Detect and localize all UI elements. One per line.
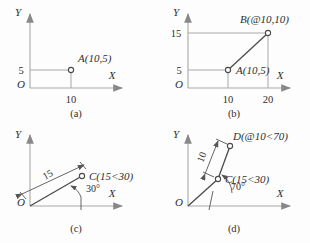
panel-b-origin-label: O — [175, 78, 183, 90]
panel-a-point-a-label: A(10,5) — [77, 52, 112, 65]
panel-c-point-c-label: C(15<30) — [89, 170, 133, 183]
panel-d-angle-reference-tick — [209, 191, 213, 210]
panel-d-origin-label: O — [175, 196, 183, 208]
panel-d-point-c-marker — [215, 176, 220, 181]
panel-d-point-d-marker — [227, 143, 232, 148]
panel-a-x-tick-10: 10 — [66, 94, 77, 105]
panel-d-segment-oc — [188, 179, 218, 206]
panel-c-origin-label: O — [17, 196, 25, 208]
panel-c-angle-label: 30° — [86, 183, 100, 194]
panel-d-ext-line-c — [203, 172, 214, 177]
panel-d-point-d-label: D(@10<70) — [232, 130, 288, 143]
panel-b: Y X O 15 5 10 20 A(10,5) B(@10,10) (b) — [171, 6, 290, 120]
panel-a-caption: (a) — [70, 108, 82, 120]
panel-a-point-a-marker — [68, 67, 73, 72]
panel-c-segment-oc — [30, 176, 82, 206]
panel-d-dimension-label: 10 — [195, 150, 209, 163]
panel-c-angle-arc — [71, 186, 81, 197]
panel-b-x-tick-10: 10 — [223, 94, 234, 105]
panel-b-y-tick-15: 15 — [171, 28, 182, 39]
panel-c-point-c-marker — [79, 173, 84, 178]
panel-a-x-axis-label: X — [108, 69, 117, 81]
panel-b-caption: (b) — [228, 108, 241, 120]
panel-a-y-axis-label: Y — [15, 6, 23, 18]
panel-b-y-axis-label: Y — [173, 6, 181, 18]
coordinate-entry-figure: Y X O 5 10 A(10,5) (a) Y X O 15 5 10 20 — [0, 0, 310, 243]
panel-b-point-a-marker — [225, 67, 230, 72]
panel-b-y-tick-5: 5 — [176, 65, 181, 76]
panel-c-caption: (c) — [70, 223, 82, 235]
panel-a-y-tick-5: 5 — [18, 65, 23, 76]
panel-c-x-axis-label: X — [108, 187, 117, 199]
panel-d: Y X O 10 70° C(15<30) D(@10<70) (d) — [173, 128, 290, 235]
figure-canvas: Y X O 5 10 A(10,5) (a) Y X O 15 5 10 20 — [0, 0, 310, 243]
panel-d-caption: (d) — [228, 223, 241, 235]
panel-b-point-b-label: B(@10,10) — [240, 13, 289, 26]
panel-d-y-axis-label: Y — [173, 128, 181, 140]
panel-d-x-axis-label: X — [276, 187, 285, 199]
panel-c: Y X O 15 30° C(15<30) (c) — [15, 128, 133, 235]
panel-b-point-b-marker — [265, 30, 270, 35]
panel-c-y-axis-label: Y — [15, 128, 23, 140]
panel-b-point-a-label: A(10,5) — [235, 64, 270, 77]
panel-d-point-c-label: C(15<30) — [225, 173, 269, 186]
panel-a-origin-label: O — [17, 78, 25, 90]
panel-b-x-axis-label: X — [276, 69, 285, 81]
panel-b-x-tick-20: 20 — [263, 94, 274, 105]
panel-a: Y X O 5 10 A(10,5) (a) — [15, 6, 122, 120]
